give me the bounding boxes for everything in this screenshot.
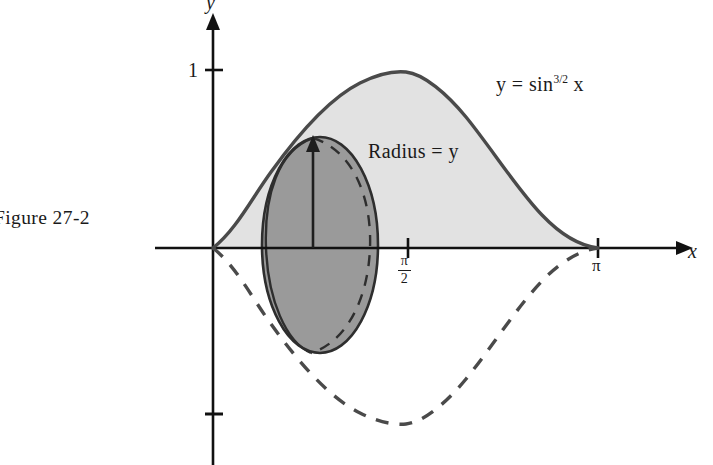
figure-container: Figure 27-2 y = sin3/2 x Radius = y x y … bbox=[0, 0, 713, 465]
half-pi-numerator: π bbox=[398, 254, 411, 269]
curve-equation-base: y = sin bbox=[496, 73, 553, 95]
curve-equation-label: y = sin3/2 x bbox=[496, 73, 584, 96]
y-axis-label: y bbox=[206, 0, 215, 14]
y-tick-label-one: 1 bbox=[188, 59, 198, 82]
curve-equation-exponent: 3/2 bbox=[553, 73, 568, 85]
radius-annotation-label: Radius = y bbox=[368, 140, 459, 163]
solid-of-revolution-diagram bbox=[0, 0, 713, 465]
half-pi-denominator: 2 bbox=[398, 272, 411, 287]
curve-equation-variable: x bbox=[574, 73, 584, 95]
x-tick-label-pi: π bbox=[592, 256, 601, 276]
y-axis-arrowhead bbox=[206, 13, 220, 30]
x-tick-label-half-pi: π 2 bbox=[398, 254, 411, 287]
x-axis-label: x bbox=[688, 240, 697, 263]
figure-caption: Figure 27-2 bbox=[0, 207, 90, 229]
